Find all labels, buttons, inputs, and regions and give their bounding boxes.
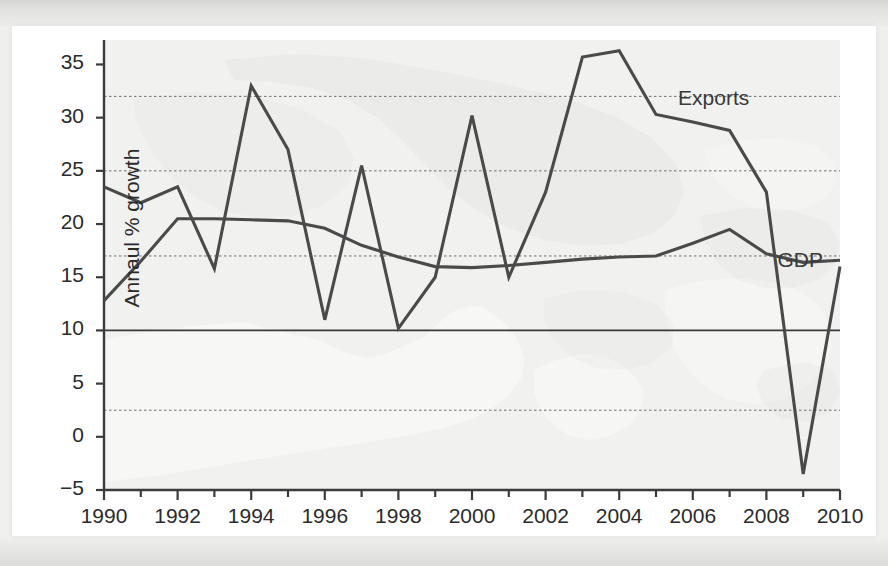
y-tick-label: −5 xyxy=(12,476,84,500)
chart-plot-area: −505101520253035 19901992199419961998200… xyxy=(104,40,840,490)
x-tick-label: 2010 xyxy=(800,504,880,528)
series-label-exports: Exports xyxy=(678,86,749,110)
x-tick-label: 1996 xyxy=(285,504,365,528)
x-tick-label: 2002 xyxy=(506,504,586,528)
y-tick-label: 15 xyxy=(12,263,84,287)
y-tick-label: 5 xyxy=(12,370,84,394)
x-tick-label: 2006 xyxy=(653,504,733,528)
x-tick-label: 1994 xyxy=(211,504,291,528)
dashed-gridlines xyxy=(104,96,840,410)
y-tick-label: 10 xyxy=(12,316,84,340)
page-bottom-edge xyxy=(0,536,888,566)
x-tick-label: 2004 xyxy=(579,504,659,528)
y-tick-label: 25 xyxy=(12,157,84,181)
y-tick-label: 30 xyxy=(12,104,84,128)
page-top-edge xyxy=(0,0,888,26)
series-label-gdp: GDP xyxy=(777,248,823,272)
x-tick-label: 2000 xyxy=(432,504,512,528)
x-tick-label: 1992 xyxy=(138,504,218,528)
y-tick-label: 35 xyxy=(12,50,84,74)
y-tick-label: 20 xyxy=(12,210,84,234)
x-tick-label: 1998 xyxy=(358,504,438,528)
x-tick-label: 1990 xyxy=(64,504,144,528)
y-tick-label: 0 xyxy=(12,423,84,447)
y-axis-title: Annaul % growth xyxy=(120,108,144,348)
x-tick-label: 2008 xyxy=(726,504,806,528)
